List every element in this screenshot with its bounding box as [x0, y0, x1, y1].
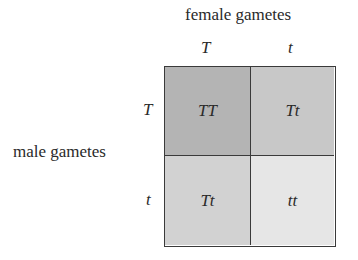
punnett-cell: Tt — [165, 156, 251, 245]
female-allele-T: T — [201, 38, 210, 58]
punnett-cell: tt — [251, 156, 334, 245]
female-gametes-label: female gametes — [185, 5, 291, 25]
genotype-label: Tt — [285, 101, 299, 121]
male-allele-t: t — [146, 190, 151, 210]
genotype-label: tt — [288, 191, 297, 211]
male-allele-T: T — [143, 100, 152, 120]
punnett-cell: Tt — [251, 67, 334, 156]
male-gametes-label: male gametes — [13, 142, 106, 162]
female-allele-t: t — [288, 38, 293, 58]
genotype-label: TT — [198, 101, 217, 121]
genotype-label: Tt — [200, 191, 214, 211]
punnett-square: TT Tt Tt tt — [164, 66, 336, 247]
punnett-cell: TT — [165, 67, 251, 156]
